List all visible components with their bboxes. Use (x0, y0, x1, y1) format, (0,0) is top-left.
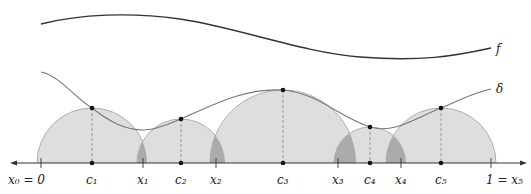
gauge-partition-diagram: f δ x₀ = 0 c₁ x₁ c₂ x₂ c₃ x₃ c₄ x₄ (0, 0, 531, 194)
arrow-left-icon (10, 161, 17, 166)
label-x5: 1 = x₅ (486, 173, 523, 187)
arrow-right-icon (520, 161, 527, 166)
label-x1: x₁ (137, 173, 149, 187)
delta-label: δ (496, 82, 503, 96)
label-x0: x₀ = 0 (8, 173, 45, 187)
label-c5: c₅ (435, 173, 447, 187)
label-c3: c₃ (277, 173, 289, 187)
label-c4: c₄ (364, 173, 376, 187)
label-x2: x₂ (210, 173, 222, 187)
label-c1: c₁ (86, 173, 98, 187)
label-c2: c₂ (175, 173, 187, 187)
f-label: f (495, 42, 503, 56)
f-curve (41, 15, 491, 59)
delta-disks (37, 90, 496, 194)
label-x4: x₄ (395, 173, 407, 187)
label-x3: x₃ (332, 173, 344, 187)
